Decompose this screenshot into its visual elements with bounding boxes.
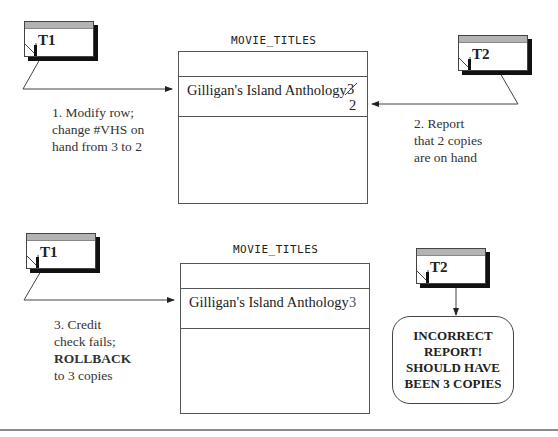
t1-label: T1 bbox=[38, 32, 56, 49]
t1-arrow-3 bbox=[24, 271, 174, 300]
page-fold-icon bbox=[24, 43, 38, 57]
row-divider bbox=[181, 288, 369, 289]
old-value-struck: 3 bbox=[347, 81, 354, 98]
new-value: 2 bbox=[349, 97, 356, 114]
table-title: MOVIE_TITLES bbox=[233, 243, 318, 256]
page-fold-icon bbox=[26, 255, 40, 269]
movie-title-cell: Gilligan's Island Anthology bbox=[189, 294, 349, 311]
incorrect-report-box: INCORRECT REPORT! SHOULD HAVE BEEN 3 COP… bbox=[392, 316, 514, 404]
t2-label: T2 bbox=[430, 259, 448, 276]
table-title: MOVIE_TITLES bbox=[231, 34, 316, 47]
row-divider bbox=[181, 328, 369, 329]
step3-caption: 3. Credit check fails; ROLLBACK to 3 cop… bbox=[54, 316, 131, 384]
t2-arrow-2 bbox=[372, 73, 518, 104]
t2-label: T2 bbox=[472, 46, 490, 63]
t1-arrow-1 bbox=[23, 59, 172, 89]
row-divider bbox=[179, 116, 367, 117]
movie-titles-table: Gilligan's Island Anthology 3 bbox=[180, 263, 370, 414]
t2-note: T2 bbox=[458, 35, 528, 71]
row-divider bbox=[179, 76, 367, 77]
t1-note: T1 bbox=[26, 233, 96, 269]
movie-titles-table: Gilligan's Island Anthology 3 2 bbox=[178, 51, 368, 204]
t2-note: T2 bbox=[416, 248, 486, 284]
page-fold-icon bbox=[416, 270, 430, 284]
page-fold-icon bbox=[458, 57, 472, 71]
t1-note: T1 bbox=[24, 21, 94, 57]
movie-title-cell: Gilligan's Island Anthology bbox=[187, 82, 347, 99]
step2-caption: 2. Report that 2 copies are on hand bbox=[414, 115, 482, 166]
value-cell: 3 bbox=[349, 294, 356, 311]
step1-caption: 1. Modify row; change #VHS on hand from … bbox=[52, 104, 144, 155]
t1-label: T1 bbox=[40, 244, 58, 261]
